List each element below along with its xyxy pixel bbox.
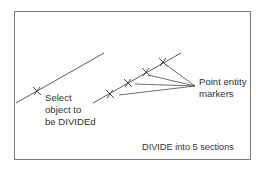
point-entity-markers-label: Point entity markers <box>199 76 246 100</box>
pick-point-x-icon <box>33 87 41 95</box>
point-marker-x-icon <box>106 90 114 98</box>
diagram-caption: DIVIDE into 5 sections <box>142 141 234 153</box>
point-marker-x-icon <box>124 79 132 87</box>
select-object-label: Select object to be DIVIDEd <box>45 92 96 128</box>
divided-line <box>93 53 181 103</box>
